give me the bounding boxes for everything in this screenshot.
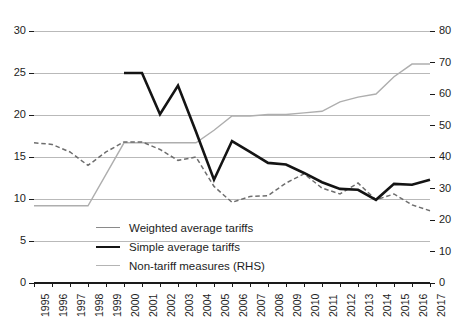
x-axis-tick-label: 2010	[309, 294, 321, 317]
x-axis-tick-label: 1998	[93, 294, 105, 317]
series-line	[34, 64, 430, 206]
x-axis-tick-label: 1997	[75, 294, 87, 317]
right-axis-tick-label: 70	[439, 56, 463, 68]
x-axis-tick-label: 2007	[255, 294, 267, 317]
legend-swatch-weighted	[96, 227, 120, 228]
x-axis-tick-label: 2000	[129, 294, 141, 317]
legend-item-label: Weighted average tariffs	[129, 222, 253, 234]
legend-item: Weighted average tariffs	[96, 218, 311, 237]
x-axis-tick-label: 2015	[399, 294, 411, 317]
legend-item: Simple average tariffs	[96, 237, 311, 256]
left-axis-tick-label: 15	[2, 150, 26, 162]
legend-item-label: Non-tariff measures (RHS)	[129, 260, 265, 272]
x-axis-tick-label: 2008	[273, 294, 285, 317]
legend-swatch-ntm	[96, 265, 120, 266]
x-axis-tick-label: 2013	[363, 294, 375, 317]
legend-swatch-simple	[96, 246, 120, 248]
x-axis-tick-label: 2001	[147, 294, 159, 317]
legend-item-label: Simple average tariffs	[129, 241, 240, 253]
x-axis-tick-label: 1999	[111, 294, 123, 317]
right-axis-ticks	[430, 31, 435, 283]
x-axis-tick-label: 2005	[219, 294, 231, 317]
left-axis-tick-label: 30	[2, 24, 26, 36]
x-axis-tick-label: 2003	[183, 294, 195, 317]
x-axis-tick-label: 2006	[237, 294, 249, 317]
right-axis-tick-label: 0	[439, 276, 463, 288]
right-axis-tick-label: 10	[439, 245, 463, 257]
x-axis-tick-label: 2004	[201, 294, 213, 317]
x-axis-tick-label: 1995	[39, 294, 51, 317]
series-line	[34, 142, 430, 211]
x-axis-tick-label: 2009	[291, 294, 303, 317]
chart-legend: Weighted average tariffsSimple average t…	[96, 218, 311, 275]
x-axis-tick-label: 2014	[381, 294, 393, 317]
right-axis-tick-label: 60	[439, 87, 463, 99]
right-axis-tick-label: 50	[439, 119, 463, 131]
x-axis-tick-label: 2016	[417, 294, 429, 317]
x-axis-tick-label: 2011	[327, 294, 339, 317]
series-line	[124, 73, 430, 200]
left-axis-tick-label: 0	[2, 276, 26, 288]
left-axis-tick-label: 20	[2, 108, 26, 120]
gridlines	[34, 31, 430, 241]
data-series-group	[34, 64, 430, 211]
left-axis-tick-label: 25	[2, 66, 26, 78]
x-axis-tick-label: 2017	[435, 294, 447, 317]
left-axis-ticks	[29, 31, 34, 283]
tariff-ntm-line-chart: 051015202530 01020304050607080 199519961…	[0, 0, 465, 321]
right-axis-tick-label: 40	[439, 150, 463, 162]
left-axis-tick-label: 10	[2, 192, 26, 204]
right-axis-tick-label: 20	[439, 213, 463, 225]
right-axis-tick-label: 30	[439, 182, 463, 194]
x-axis-tick-label: 1996	[57, 294, 69, 317]
x-axis-tick-label: 2002	[165, 294, 177, 317]
legend-item: Non-tariff measures (RHS)	[96, 256, 311, 275]
x-axis-tick-label: 2012	[345, 294, 357, 317]
right-axis-tick-label: 80	[439, 24, 463, 36]
left-axis-tick-label: 5	[2, 234, 26, 246]
x-axis-line	[34, 283, 430, 287]
